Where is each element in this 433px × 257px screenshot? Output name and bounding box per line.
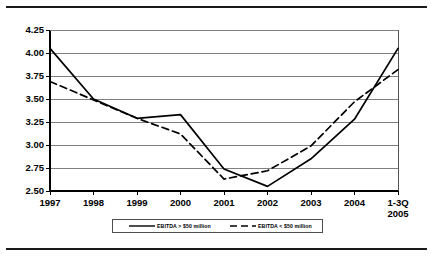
legend-swatch-dashed-line-icon (230, 222, 256, 230)
legend-item-ebitda-below-50m: EBITDA < $50 million (230, 220, 312, 232)
x-tick-label: 2002 (246, 197, 290, 208)
y-tick-label: 2.75 (10, 162, 44, 173)
y-tick-label: 2.50 (10, 185, 44, 196)
chart-figure: 2.502.753.003.253.503.754.004.25 1997199… (0, 0, 433, 257)
legend-swatch-solid-line-icon (129, 222, 155, 230)
y-tick-label: 3.50 (10, 93, 44, 104)
x-tick-label: 1997 (28, 197, 72, 208)
x-tick-label: 1998 (72, 197, 116, 208)
x-tick-label: 2001 (202, 197, 246, 208)
y-tick-label: 3.75 (10, 70, 44, 81)
legend-item-ebitda-above-50m: EBITDA > $50 million (129, 220, 211, 232)
x-tick-label: 2000 (159, 197, 203, 208)
x-tick-label: 1999 (115, 197, 159, 208)
y-tick-label: 4.25 (10, 24, 44, 35)
x-tick-label: 2004 (333, 197, 377, 208)
y-tick-label: 3.00 (10, 139, 44, 150)
legend-label-ebitda-above-50m: EBITDA > $50 million (157, 223, 211, 229)
legend-label-ebitda-below-50m: EBITDA < $50 million (258, 223, 312, 229)
y-tick-label: 3.25 (10, 116, 44, 127)
x-tick-label: 1-3Q2005 (376, 197, 420, 219)
series-line-0 (50, 48, 398, 186)
chart-legend: EBITDA > $50 million EBITDA < $50 millio… (112, 219, 323, 233)
series-line-1 (50, 70, 398, 179)
x-tick-label: 2003 (289, 197, 333, 208)
y-tick-label: 4.00 (10, 47, 44, 58)
data-series-group (50, 48, 398, 186)
